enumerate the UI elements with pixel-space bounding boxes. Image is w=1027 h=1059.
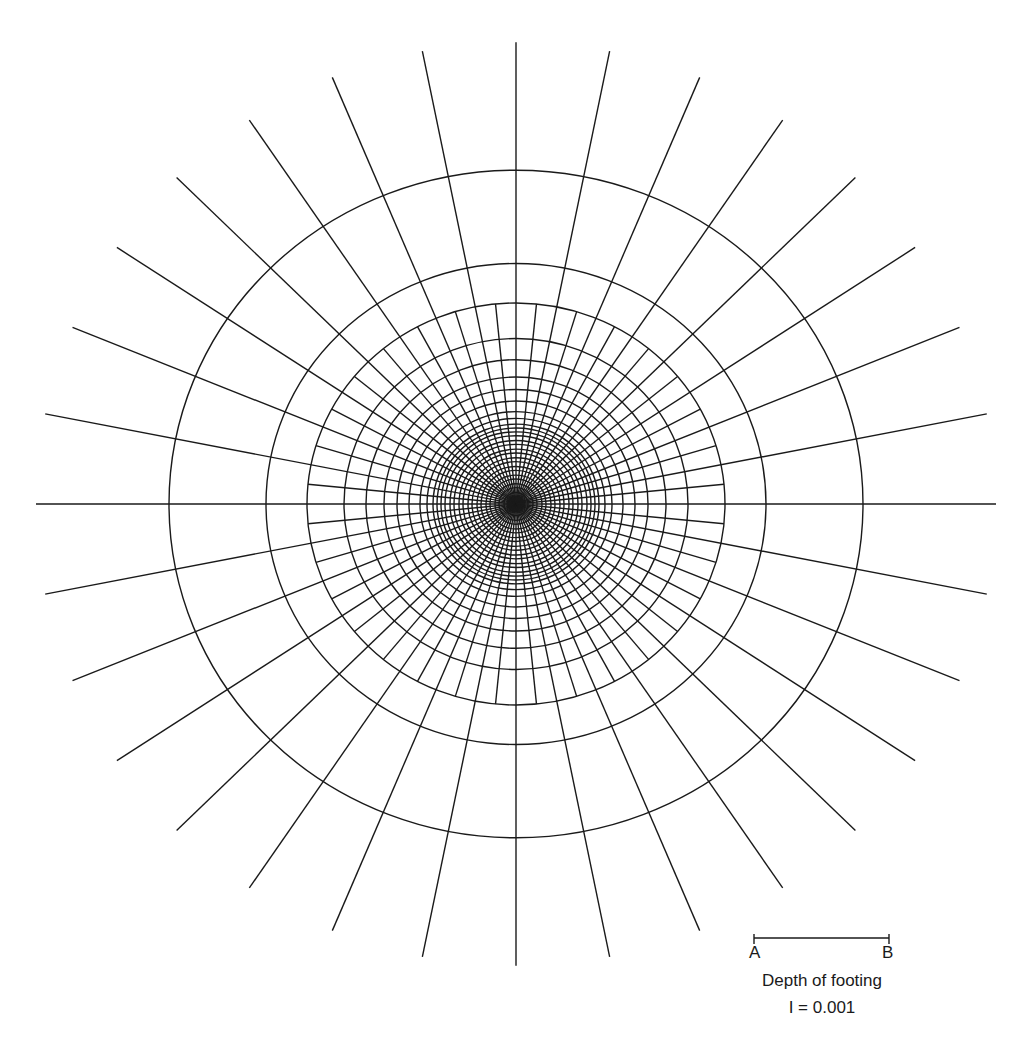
- influence-chart: [0, 0, 1027, 1059]
- influence-value-label: I = 0.001: [752, 998, 892, 1018]
- outer-spoke: [73, 504, 516, 681]
- outer-spoke: [516, 504, 700, 931]
- outer-spoke: [73, 327, 516, 504]
- outer-spoke: [332, 77, 516, 504]
- outer-spoke: [516, 77, 700, 504]
- scale-bar-label-b: B: [882, 943, 893, 963]
- chart-grid: [36, 42, 996, 966]
- outer-spoke: [516, 504, 959, 681]
- scale-bar: [754, 934, 889, 944]
- scale-bar-label-a: A: [749, 943, 760, 963]
- outer-spoke: [516, 327, 959, 504]
- outer-spoke: [332, 504, 516, 931]
- depth-of-footing-caption: Depth of footing: [752, 971, 892, 991]
